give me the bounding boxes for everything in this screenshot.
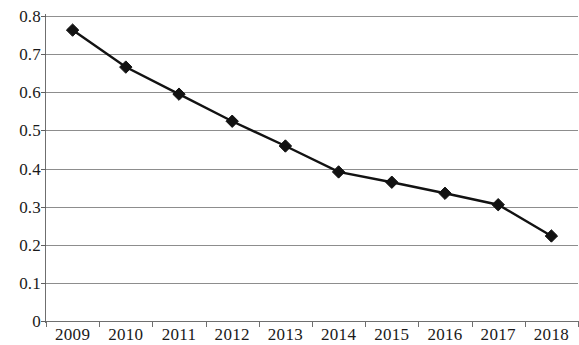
y-tick-mark-0.7 [41,54,46,55]
gridline-0.7 [46,54,578,55]
y-tick-mark-0.2 [41,245,46,246]
y-tick-mark-0.3 [41,207,46,208]
gridline-0.3 [46,207,578,208]
plot-area [46,16,578,321]
gridline-0.2 [46,245,578,246]
y-axis-labels: 0.8 0.7 0.6 0.5 0.4 0.3 0.2 0.1 0 [0,0,41,345]
y-tick-label-0.5: 0.5 [1,122,41,139]
x-tick-label-2013: 2013 [259,326,312,344]
y-tick-label-0.1: 0.1 [1,275,41,292]
x-tick-label-2010: 2010 [99,326,152,344]
gridline-0.6 [46,92,578,93]
x-tick-label-2012: 2012 [206,326,259,344]
x-tick-label-2017: 2017 [472,326,525,344]
x-tick-label-2011: 2011 [152,326,205,344]
gridline-0.5 [46,130,578,131]
y-tick-mark-0.6 [41,92,46,93]
x-tick-label-2018: 2018 [525,326,578,344]
y-tick-label-0.7: 0.7 [1,46,41,63]
x-tick-label-2009: 2009 [46,326,99,344]
x-tick-label-2014: 2014 [312,326,365,344]
y-tick-label-0.4: 0.4 [1,161,41,178]
y-tick-mark-0.5 [41,130,46,131]
y-tick-mark-0.1 [41,283,46,284]
y-tick-label-0: 0 [1,313,41,330]
gridline-0.4 [46,169,578,170]
x-tick-label-2016: 2016 [418,326,471,344]
y-tick-label-0.3: 0.3 [1,199,41,216]
y-tick-mark-0.8 [41,16,46,17]
line-chart: 0.8 0.7 0.6 0.5 0.4 0.3 0.2 0.1 0 2009 2… [0,0,579,345]
y-tick-label-0.2: 0.2 [1,237,41,254]
y-tick-label-0.6: 0.6 [1,84,41,101]
y-tick-mark-0.4 [41,169,46,170]
x-tick-label-2015: 2015 [365,326,418,344]
gridline-0.8 [46,16,578,17]
y-tick-label-0.8: 0.8 [1,8,41,25]
gridline-0.1 [46,283,578,284]
